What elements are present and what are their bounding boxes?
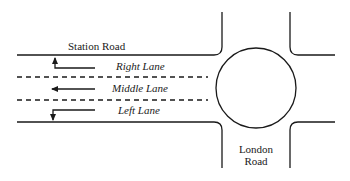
roundabout-circle xyxy=(216,48,296,128)
left-lane-label: Left Lane xyxy=(118,104,160,116)
london-road-label-line1: London xyxy=(236,143,276,155)
station-road-label: Station Road xyxy=(68,40,125,52)
north-road-right-edge xyxy=(290,12,335,55)
station-road-bottom-edge xyxy=(17,122,222,168)
right-lane-label: Right Lane xyxy=(116,60,165,72)
london-road-label-line2: Road xyxy=(236,155,276,167)
junction-diagram xyxy=(0,0,350,181)
middle-lane-label: Middle Lane xyxy=(112,82,168,94)
london-road-right-edge xyxy=(290,122,335,168)
left-lane-arrow-icon xyxy=(53,110,95,120)
right-lane-arrow-icon xyxy=(55,58,95,68)
london-road-label: London Road xyxy=(236,143,276,167)
